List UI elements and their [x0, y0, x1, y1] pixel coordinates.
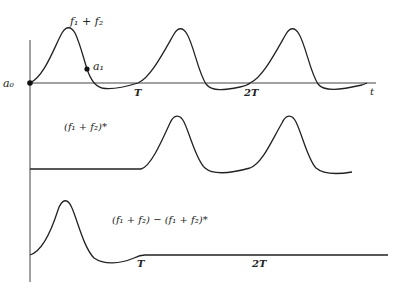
middle-curve-label: (f₁ + f₂)* — [64, 121, 107, 132]
difference-signal-curve — [30, 201, 388, 263]
diagram-canvas: f₁ + f₂ a₀ a₁ T 2T t (f₁ + f₂)* (f₁ + f₂… — [0, 0, 402, 288]
time-axis-label: t — [370, 86, 375, 97]
bottom-tick-2T-label: 2T — [251, 258, 268, 269]
bottom-curve-label: (f₁ + f₂) − (f₁ + f₂)* — [112, 214, 208, 225]
panel-bottom: (f₁ + f₂) − (f₁ + f₂)* T 2T — [30, 201, 388, 269]
tick-T-label: T — [134, 87, 143, 98]
periodic-signal-curve — [30, 28, 367, 90]
a0-label: a₀ — [3, 77, 15, 90]
panel-middle: (f₁ + f₂)* — [30, 116, 352, 173]
a1-label: a₁ — [93, 60, 104, 73]
top-curve-label: f₁ + f₂ — [69, 15, 103, 28]
panel-top: f₁ + f₂ a₀ a₁ T 2T t — [3, 15, 376, 98]
tick-2T-label: 2T — [243, 87, 260, 98]
point-a0-marker — [27, 80, 33, 86]
point-a1-marker — [84, 66, 89, 71]
bottom-tick-T-label: T — [137, 258, 146, 269]
